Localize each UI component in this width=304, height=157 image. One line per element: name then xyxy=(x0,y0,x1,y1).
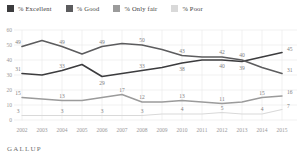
svg-text:49: 49 xyxy=(15,39,21,45)
svg-text:13: 13 xyxy=(59,93,65,99)
svg-text:2008: 2008 xyxy=(137,127,148,133)
svg-text:3: 3 xyxy=(141,108,144,114)
svg-text:33: 33 xyxy=(59,63,65,69)
svg-text:11: 11 xyxy=(219,96,225,102)
line-chart-svg: 6050403020100200220032004200520062007200… xyxy=(0,0,304,157)
svg-text:2012: 2012 xyxy=(217,127,228,133)
svg-text:2005: 2005 xyxy=(77,127,88,133)
line-chart: 6050403020100200220032004200520062007200… xyxy=(0,0,304,157)
svg-text:30: 30 xyxy=(7,72,13,78)
svg-text:2014: 2014 xyxy=(257,127,268,133)
svg-text:2007: 2007 xyxy=(117,127,128,133)
svg-text:60: 60 xyxy=(7,27,13,33)
svg-text:2010: 2010 xyxy=(177,127,188,133)
svg-text:2013: 2013 xyxy=(237,127,248,133)
svg-text:15: 15 xyxy=(15,90,21,96)
svg-text:5: 5 xyxy=(221,105,224,111)
svg-text:13: 13 xyxy=(179,93,185,99)
svg-text:2009: 2009 xyxy=(157,127,168,133)
svg-text:38: 38 xyxy=(179,66,185,72)
svg-text:15: 15 xyxy=(259,90,265,96)
svg-text:40: 40 xyxy=(7,57,13,63)
svg-text:3: 3 xyxy=(101,108,104,114)
svg-text:2003: 2003 xyxy=(37,127,48,133)
svg-text:16: 16 xyxy=(287,89,293,95)
svg-text:50: 50 xyxy=(7,42,13,48)
svg-text:49: 49 xyxy=(59,39,65,45)
gallup-trend-chart-page: % Excellent % Good % Only fair % Poor 60… xyxy=(0,0,304,157)
svg-text:31: 31 xyxy=(287,67,293,73)
svg-text:40: 40 xyxy=(239,52,245,58)
svg-text:50: 50 xyxy=(139,37,145,43)
gallup-wordmark: GALLUP xyxy=(7,145,42,153)
svg-text:45: 45 xyxy=(287,46,293,52)
svg-text:31: 31 xyxy=(15,66,21,72)
svg-text:17: 17 xyxy=(119,87,125,93)
svg-text:33: 33 xyxy=(139,63,145,69)
svg-text:39: 39 xyxy=(239,65,245,71)
svg-text:12: 12 xyxy=(139,94,145,100)
svg-text:3: 3 xyxy=(61,108,64,114)
svg-text:29: 29 xyxy=(99,80,105,86)
svg-text:2006: 2006 xyxy=(97,127,108,133)
svg-text:4: 4 xyxy=(181,106,184,112)
svg-text:43: 43 xyxy=(179,48,185,54)
svg-text:42: 42 xyxy=(219,49,225,55)
svg-text:40: 40 xyxy=(219,63,225,69)
svg-text:7: 7 xyxy=(287,103,290,109)
svg-text:2002: 2002 xyxy=(17,127,28,133)
svg-text:2004: 2004 xyxy=(57,127,68,133)
svg-text:10: 10 xyxy=(7,102,13,108)
svg-text:49: 49 xyxy=(99,39,105,45)
svg-text:2015: 2015 xyxy=(277,127,288,133)
svg-text:20: 20 xyxy=(7,87,13,93)
svg-text:0: 0 xyxy=(9,117,12,123)
svg-text:3: 3 xyxy=(17,108,20,114)
svg-text:2011: 2011 xyxy=(197,127,208,133)
svg-text:4: 4 xyxy=(261,106,264,112)
